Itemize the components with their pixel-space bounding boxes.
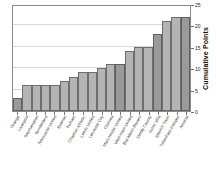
x-axis-label-text: Arsenal <box>179 115 190 129</box>
bar <box>153 34 162 111</box>
y-axis-tick <box>191 112 194 113</box>
bar <box>22 85 31 111</box>
y-axis-tick <box>191 48 194 49</box>
bar <box>125 51 134 111</box>
y-axis-tick <box>191 91 194 92</box>
bar <box>60 81 69 111</box>
bar-series <box>13 6 190 111</box>
plot-area <box>12 5 191 112</box>
bar <box>162 21 171 111</box>
y-axis-title-label: Cumulative Points <box>202 27 209 90</box>
bar <box>88 72 97 111</box>
bar <box>41 85 50 111</box>
bar <box>78 72 87 111</box>
bar <box>134 47 143 111</box>
bar <box>106 64 115 111</box>
y-axis-tick <box>191 26 194 27</box>
bar <box>97 68 106 111</box>
bar <box>69 77 78 111</box>
y-axis-title: Cumulative Points <box>196 5 214 112</box>
y-axis-tick <box>191 69 194 70</box>
bar <box>50 85 59 111</box>
cumulative-points-chart: 0510152025 Cumulative Points OrangeLiver… <box>0 0 216 178</box>
bar <box>171 17 180 111</box>
bar <box>115 64 124 111</box>
bar <box>181 17 190 111</box>
y-axis-tick <box>191 5 194 6</box>
bar <box>13 98 22 111</box>
bar <box>32 85 41 111</box>
x-axis-labels: OrangeLiverpoolSouthamptonSunderlandNewc… <box>12 113 191 175</box>
x-axis-label: Arsenal <box>182 113 191 175</box>
bar <box>143 47 152 111</box>
